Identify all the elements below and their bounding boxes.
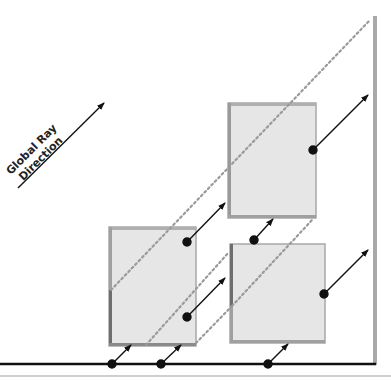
- ray-origin-dot: [183, 313, 191, 321]
- ray-origin-dot: [264, 360, 272, 368]
- ray-upper-right-box: [313, 95, 368, 150]
- upper-right-box: [228, 103, 316, 218]
- wall: [373, 16, 377, 365]
- ray-lower-right-box: [324, 250, 368, 294]
- ray-origin-dot: [250, 236, 258, 244]
- ray-origin-dot: [309, 146, 317, 154]
- ray-left-box-top: [187, 203, 225, 242]
- ray-origin-dot: [320, 290, 328, 298]
- left-box: [109, 227, 196, 346]
- occluded-ray-3: [196, 306, 232, 343]
- ray-origin-dot: [183, 238, 191, 246]
- ray-origin-dot: [157, 360, 165, 368]
- global-ray-direction-label: Global Ray Direction: [4, 122, 69, 187]
- ray-occlusion-diagram: Global Ray Direction: [0, 0, 391, 381]
- ray-origin-dot: [108, 360, 116, 368]
